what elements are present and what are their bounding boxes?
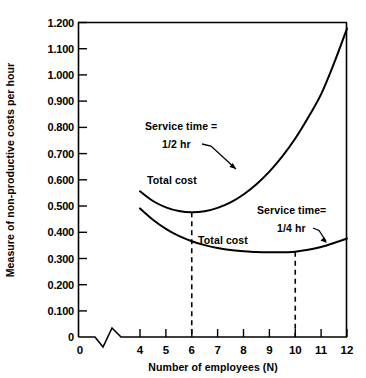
x-tick-label-6: 6 [189,344,195,356]
annotation-upper-line1: Service time = [145,120,217,132]
y-tick-label-0: 0 [68,331,74,343]
y-tick-label-0.900: 0.900 [47,95,74,107]
label-lower-total-cost: Total cost [198,234,248,246]
y-axis-ticks [78,23,87,311]
y-tick-label-0.400: 0.400 [47,226,74,238]
x-tick-label-4: 4 [137,344,144,356]
y-tick-label-0.100: 0.100 [47,305,74,317]
x-axis-ticks [140,329,347,337]
y-tick-label-0.300: 0.300 [47,253,74,265]
x-tick-label-9: 9 [266,344,272,356]
chart-canvas: 1.200 1.100 1.000 0.900 0.800 0.700 0.60… [0,0,366,378]
x-tick-label-8: 8 [240,344,247,356]
annotation-lower-line1: Service time= [257,204,326,216]
annotation-service-time-half-hour: Service time = 1/2 hr [145,120,236,169]
x-axis-title: Number of employees (N) [148,361,278,373]
plot-frame [78,22,347,347]
y-tick-label-0.800: 0.800 [47,121,74,133]
y-axis-tick-labels: 1.200 1.100 1.000 0.900 0.800 0.700 0.60… [47,17,74,344]
x-tick-label-7: 7 [214,344,220,356]
y-axis-title: Measure of non-productive costs per hour [4,63,16,278]
x-axis-tick-labels: 0 4 5 6 7 8 9 10 11 12 [77,344,354,356]
y-tick-label-1.100: 1.100 [47,43,74,55]
annotation-service-time-quarter-hour: Service time= 1/4 hr [257,204,327,243]
x-tick-label-5: 5 [163,344,170,356]
y-tick-label-1.000: 1.000 [47,69,74,81]
x-tick-label-11: 11 [315,344,328,356]
annotation-lower-line2: 1/4 hr [277,222,306,234]
x-tick-label-10: 10 [289,344,302,356]
y-tick-label-0.200: 0.200 [47,279,74,291]
label-upper-total-cost: Total cost [147,174,197,186]
x-tick-label-12: 12 [341,344,354,356]
annotation-upper-leader-line [202,144,236,169]
annotation-upper-line2: 1/2 hr [162,138,191,150]
x-tick-label-0: 0 [77,344,83,356]
x-axis-line-with-break [79,328,348,347]
y-tick-label-0.500: 0.500 [47,200,74,212]
y-tick-label-0.700: 0.700 [47,148,74,160]
y-tick-label-1.200: 1.200 [47,17,74,29]
chart-figure: 1.200 1.100 1.000 0.900 0.800 0.700 0.60… [0,0,366,378]
y-tick-label-0.600: 0.600 [47,174,74,186]
